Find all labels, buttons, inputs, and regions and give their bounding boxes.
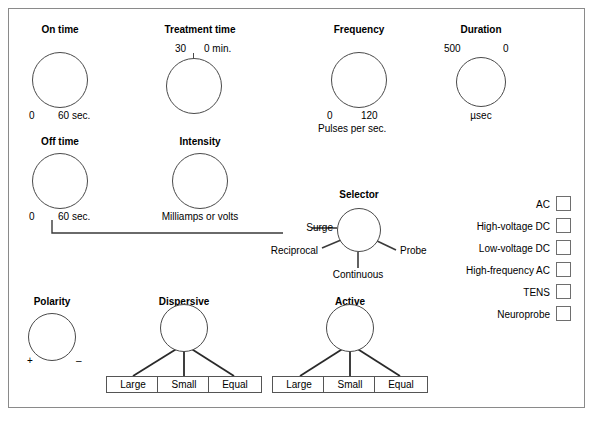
dispersive-size-small[interactable]: Small [157, 376, 211, 393]
knob-active[interactable] [326, 304, 374, 352]
checkbox-label-low-voltage-dc: Low-voltage DC [479, 243, 550, 254]
checkbox-label-high-voltage-dc: High-voltage DC [477, 221, 550, 232]
knob-max-on-time: 60 sec. [58, 110, 90, 121]
knob-selector[interactable] [337, 208, 381, 252]
knob-unit-intensity: Milliamps or volts [162, 211, 239, 222]
polarity-negative-sign: – [76, 355, 82, 366]
active-size-large[interactable]: Large [272, 376, 326, 393]
knob-max-off-time: 60 sec. [58, 211, 90, 222]
knob-label-treatment-time: Treatment time [164, 24, 235, 35]
checkbox-high-voltage-dc[interactable] [556, 218, 571, 233]
knob-intensity[interactable] [172, 153, 228, 209]
knob-label-intensity: Intensity [179, 136, 220, 147]
knob-label-off-time: Off time [41, 136, 79, 147]
checkbox-label-neuroprobe: Neuroprobe [497, 309, 550, 320]
knob-label-polarity: Polarity [34, 296, 71, 307]
checkbox-high-frequency-ac[interactable] [556, 262, 571, 277]
polarity-positive-sign: + [27, 355, 33, 366]
knob-treatment-time[interactable] [166, 58, 222, 114]
checkbox-label-tens: TENS [523, 287, 550, 298]
checkbox-tens[interactable] [556, 284, 571, 299]
dispersive-size-large[interactable]: Large [106, 376, 160, 393]
knob-off-time[interactable] [32, 153, 88, 209]
knob-min-frequency: 0 [327, 110, 333, 121]
checkbox-neuroprobe[interactable] [556, 306, 571, 321]
knob-label-duration: Duration [460, 24, 501, 35]
knob-max-duration: 0 [503, 43, 509, 54]
checkbox-label-ac: AC [536, 199, 550, 210]
checkbox-low-voltage-dc[interactable] [556, 240, 571, 255]
knob-max-treatment-time: 0 min. [204, 43, 231, 54]
knob-label-frequency: Frequency [334, 24, 385, 35]
control-panel-diagram: On time 0 60 sec. Treatment time 30 0 mi… [0, 0, 595, 422]
knob-frequency[interactable] [331, 52, 387, 108]
selector-option-continuous[interactable]: Continuous [333, 269, 384, 280]
selector-option-surge[interactable]: Surge [306, 222, 333, 233]
knob-min-off-time: 0 [29, 211, 35, 222]
knob-polarity[interactable] [28, 313, 76, 361]
knob-unit-duration: µsec [470, 110, 491, 121]
selector-option-probe[interactable]: Probe [400, 245, 427, 256]
active-size-small[interactable]: Small [323, 376, 377, 393]
checkbox-ac[interactable] [556, 196, 571, 211]
active-size-equal[interactable]: Equal [374, 376, 428, 393]
checkbox-label-high-frequency-ac: High-frequency AC [466, 265, 550, 276]
knob-max-frequency: 120 [361, 110, 378, 121]
knob-duration[interactable] [456, 57, 506, 107]
knob-min-duration: 500 [444, 43, 461, 54]
selector-label: Selector [339, 189, 378, 200]
dispersive-size-equal[interactable]: Equal [208, 376, 262, 393]
knob-min-on-time: 0 [29, 110, 35, 121]
knob-unit-frequency: Pulses per sec. [318, 123, 386, 134]
knob-on-time[interactable] [32, 52, 88, 108]
selector-option-reciprocal[interactable]: Reciprocal [271, 245, 318, 256]
knob-label-on-time: On time [41, 24, 78, 35]
knob-dispersive[interactable] [160, 304, 208, 352]
knob-min-treatment-time: 30 [175, 43, 186, 54]
